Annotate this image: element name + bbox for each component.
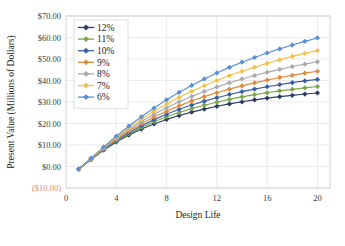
y-tick-label: $0.00 [42,162,61,172]
y-tick-label: $20.00 [38,119,61,129]
line-chart: ($10.00)$0.00$10.00$20.00$30.00$40.00$50… [0,0,345,246]
x-tick-label: 0 [64,193,68,203]
x-axis-title: Design Life [175,210,220,220]
x-tick-label: 12 [213,193,222,203]
y-tick-label: $60.00 [38,33,61,43]
y-tick-label: $50.00 [38,54,61,64]
x-tick-label: 4 [114,193,119,203]
legend-label: 12% [97,23,115,33]
x-tick-label: 20 [313,193,322,203]
x-tick-label: 8 [164,193,168,203]
legend-label: 11% [97,34,114,44]
y-tick-label: $30.00 [38,97,61,107]
legend-label: 8% [97,69,110,79]
y-tick-label: $70.00 [38,11,61,21]
y-tick-label: $40.00 [38,76,61,86]
legend-label: 7% [97,81,110,91]
chart-legend: 12%11%10%9%8%7%6% [74,20,128,108]
legend-label: 10% [97,46,115,56]
legend-label: 6% [97,92,110,102]
x-tick-label: 16 [263,193,272,203]
legend-label: 9% [97,58,110,68]
chart-container: ($10.00)$0.00$10.00$20.00$30.00$40.00$50… [0,0,345,246]
y-axis-title: Present Value (Millions of Dollars) [6,35,17,168]
y-tick-label: $10.00 [38,140,61,150]
y-tick-label-negative: ($10.00) [32,183,61,193]
